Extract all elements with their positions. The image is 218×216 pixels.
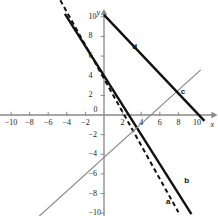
series-label-c: c: [181, 88, 185, 96]
y-tick-label--6: −6: [89, 170, 98, 178]
x-axis-arrow: [211, 112, 217, 118]
x-tick-label-6: 6: [158, 119, 162, 127]
series-line-a: [53, 0, 179, 212]
series-line-b: [65, 14, 191, 214]
x-tick-label--8: −8: [25, 119, 34, 127]
y-tick-label-8: 8: [89, 32, 93, 40]
x-tick-label-2: 2: [121, 119, 125, 127]
coordinate-graph: −10−8−6−4−20246810108642−2−4−6−8−10xyabc…: [0, 0, 218, 216]
series-line-d: [104, 15, 204, 121]
x-tick-label-10: 10: [193, 119, 201, 127]
y-axis-arrow: [101, 9, 107, 15]
x-tick-label-8: 8: [176, 119, 180, 127]
y-tick-label--10: −10: [89, 209, 102, 216]
x-axis-label: x: [210, 121, 214, 129]
x-tick-label--2: −2: [81, 119, 90, 127]
x-tick-label-0: 0: [94, 106, 98, 114]
series-label-d: d: [132, 43, 137, 51]
y-tick-label-6: 6: [89, 52, 93, 60]
y-axis-label: y: [97, 9, 101, 17]
x-tick-label--10: −10: [5, 119, 18, 127]
y-tick-label-2: 2: [89, 91, 93, 99]
series-label-a: a: [166, 198, 170, 206]
x-tick-label--4: −4: [63, 119, 72, 127]
y-tick-label-4: 4: [89, 72, 93, 80]
x-tick-label--6: −6: [44, 119, 53, 127]
y-tick-label--4: −4: [89, 150, 98, 158]
x-tick-label-4: 4: [139, 119, 143, 127]
series-label-b: b: [184, 177, 189, 185]
y-tick-label-10: 10: [89, 13, 97, 21]
y-tick-label--8: −8: [89, 190, 98, 198]
y-tick-label--2: −2: [89, 131, 98, 139]
